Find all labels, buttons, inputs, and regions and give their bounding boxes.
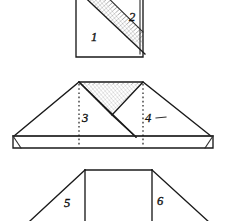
step2-band-right-corner [205,136,213,148]
step1-label-1: 1 [91,30,97,44]
step2-base-band [13,136,213,148]
step2-label-3: 3 [81,111,88,125]
step2-label-4: 4 [145,111,151,125]
step-1-group: 1 2 [74,0,145,57]
step2-band-left-corner [13,136,21,148]
folding-diagram: 1 2 [0,0,226,221]
step-3-group: 5 6 [17,170,221,221]
step3-label-6: 6 [157,194,164,208]
step1-label-2: 2 [129,10,135,24]
step3-label-5: 5 [64,196,70,210]
step-2-group: 3 4 [13,82,213,148]
diagram-canvas: 1 2 [0,0,226,221]
step3-body-fill [17,170,220,221]
